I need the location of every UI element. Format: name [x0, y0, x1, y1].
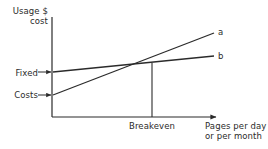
costs-label: Costs — [6, 90, 38, 100]
x-axis-label: Pages per dayor per month — [205, 121, 267, 141]
series-line-b — [53, 56, 214, 72]
y-axis-label-line1: Usage $ — [13, 6, 48, 16]
fixed-cost-label: Fixed — [6, 68, 38, 78]
y-axis-label: Usage $cost — [2, 6, 48, 26]
x-axis-label-line2: or per month — [205, 131, 267, 141]
series-b-label: b — [218, 51, 224, 61]
breakeven-chart-figure: Usage $cost Fixed Costs Breakeven Pages … — [0, 0, 268, 149]
y-axis-label-line2: cost — [2, 16, 48, 26]
x-axis-label-line1: Pages per day — [205, 121, 266, 131]
breakeven-label: Breakeven — [113, 121, 191, 131]
series-a-label: a — [218, 27, 223, 37]
